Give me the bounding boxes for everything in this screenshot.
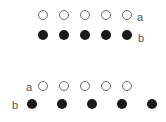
filled-circle-icon <box>87 99 97 109</box>
row-label: b <box>138 33 144 44</box>
filled-circle-icon <box>122 30 132 40</box>
filled-circle-icon <box>27 99 37 109</box>
open-circle-icon <box>38 10 48 20</box>
open-circle-icon <box>101 81 111 91</box>
filled-circle-icon <box>59 30 69 40</box>
open-circle-icon <box>122 10 132 20</box>
open-circle-icon <box>59 10 69 20</box>
open-circle-icon <box>38 81 48 91</box>
open-circle-icon <box>59 81 69 91</box>
filled-circle-icon <box>147 99 157 109</box>
open-circle-icon <box>80 10 90 20</box>
row-label: a <box>137 12 143 23</box>
filled-circle-icon <box>80 30 90 40</box>
row-label: a <box>26 82 32 93</box>
row-label: b <box>12 100 18 111</box>
filled-circle-icon <box>57 99 67 109</box>
filled-circle-icon <box>38 30 48 40</box>
open-circle-icon <box>80 81 90 91</box>
filled-circle-icon <box>117 99 127 109</box>
open-circle-icon <box>122 81 132 91</box>
filled-circle-icon <box>101 30 111 40</box>
open-circle-icon <box>101 10 111 20</box>
